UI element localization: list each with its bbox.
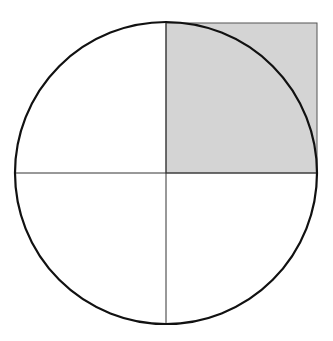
diagram-canvas — [0, 0, 333, 341]
shaded-square — [166, 23, 317, 173]
